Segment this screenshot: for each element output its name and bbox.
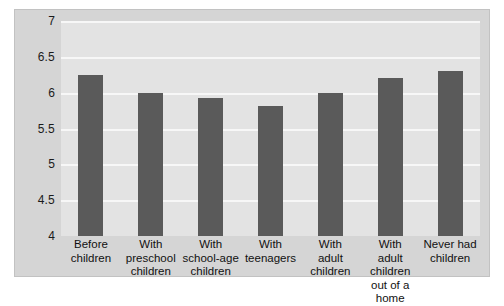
y-axis-tick: 6	[48, 86, 55, 100]
x-axis-label: Withschool-agechildren	[181, 238, 241, 306]
bar-slot	[420, 21, 480, 236]
x-axis-label-line: school-age	[182, 252, 240, 266]
bar-slot	[241, 21, 301, 236]
x-axis-label-line: children	[122, 265, 180, 279]
x-axis-label-line: children	[421, 252, 479, 266]
x-axis-label-line: With	[361, 238, 419, 252]
x-axis-label-line: adult	[301, 252, 359, 266]
x-axis-label: Withteenagers	[241, 238, 301, 306]
bar[interactable]	[138, 93, 163, 236]
y-axis: 76.565.554.54	[15, 10, 61, 276]
x-axis-label-line: Never had	[421, 238, 479, 252]
bar[interactable]	[258, 106, 283, 236]
x-axis-label: Beforechildren	[61, 238, 121, 306]
bar-slot	[300, 21, 360, 236]
x-axis-label-line: With	[242, 238, 300, 252]
y-axis-tick: 6.5	[38, 50, 55, 64]
y-axis-tick: 5.5	[38, 122, 55, 136]
x-axis-label-line: children	[301, 265, 359, 279]
x-axis-label-line: children	[62, 252, 120, 266]
bar-slot	[360, 21, 420, 236]
x-axis-label: Never hadchildren	[420, 238, 480, 306]
y-axis-tick: 5	[48, 157, 55, 171]
bar-slot	[181, 21, 241, 236]
bar-slot	[61, 21, 121, 236]
bar[interactable]	[378, 78, 403, 236]
x-axis-label-line: With	[301, 238, 359, 252]
bar[interactable]	[318, 93, 343, 236]
x-axis-label-line: preschool	[122, 252, 180, 266]
x-axis-label-line: With	[122, 238, 180, 252]
x-axis-label-line: teenagers	[242, 252, 300, 266]
y-axis-tick: 4.5	[38, 193, 55, 207]
chart-figure: 76.565.554.54 BeforechildrenWithpreschoo…	[14, 9, 490, 277]
y-axis-tick: 4	[48, 229, 55, 243]
bar-series	[61, 21, 480, 236]
y-axis-tick: 7	[48, 14, 55, 28]
x-axis-labels: BeforechildrenWithpreschoolchildrenWiths…	[61, 238, 480, 306]
bar[interactable]	[78, 75, 103, 236]
x-axis-label: Withpreschoolchildren	[121, 238, 181, 306]
x-axis-label-line: adult children	[361, 252, 419, 279]
x-axis-label-line: With	[182, 238, 240, 252]
bar-slot	[121, 21, 181, 236]
bar[interactable]	[438, 71, 463, 236]
x-axis-label: Withadultchildren	[300, 238, 360, 306]
bar[interactable]	[198, 98, 223, 236]
x-axis-label-line: children	[182, 265, 240, 279]
x-axis-label-line: Before	[62, 238, 120, 252]
x-axis-label-line: out of a home	[361, 279, 419, 306]
plot-area	[61, 21, 480, 236]
x-axis-label: Withadult childrenout of a home	[360, 238, 420, 306]
